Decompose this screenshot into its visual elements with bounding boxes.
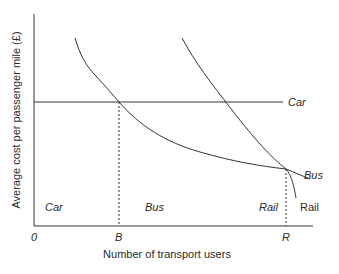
region-label-bus: Bus xyxy=(145,201,164,213)
tick-b: B xyxy=(115,231,122,243)
curve-label-bus: Bus xyxy=(304,169,323,181)
y-axis-title: Average cost per passenger mile (£) xyxy=(10,31,22,208)
tick-r: R xyxy=(282,231,290,243)
tick-origin: 0 xyxy=(31,231,38,243)
rail-cost-curve xyxy=(182,38,296,198)
x-axis-title: Number of transport users xyxy=(103,248,231,260)
region-label-car: Car xyxy=(45,201,64,213)
curve-label-car: Car xyxy=(288,96,307,108)
region-label-rail: Rail xyxy=(259,201,279,213)
curve-label-rail: Rail xyxy=(300,201,319,213)
cost-chart: Car Bus Rail Car Bus Rail 0 B R Number o… xyxy=(0,0,339,274)
bus-cost-curve xyxy=(75,38,310,179)
